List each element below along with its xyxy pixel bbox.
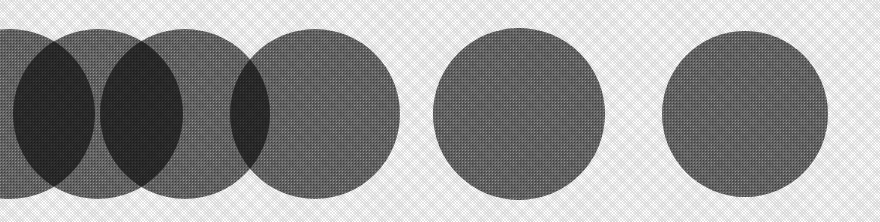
circle-6: [662, 31, 828, 197]
circle-4: [230, 29, 400, 199]
figure-container: Row of six equal-radius filled circles o…: [0, 0, 880, 222]
circle-5: [433, 28, 605, 200]
overlapping-circles-figure: [0, 0, 880, 222]
